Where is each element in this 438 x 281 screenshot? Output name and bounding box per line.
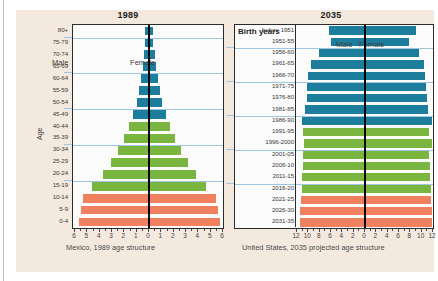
axis-minor-tick bbox=[336, 229, 337, 231]
bar-male bbox=[303, 128, 365, 136]
bar-female bbox=[365, 83, 426, 91]
bar-male bbox=[302, 173, 365, 181]
bar-female bbox=[365, 139, 432, 147]
gridline-tick bbox=[226, 81, 234, 82]
female-label-2035: Female bbox=[359, 40, 384, 49]
axis-tick-label: 10 bbox=[301, 232, 313, 239]
axis-tick-label: 6 bbox=[392, 232, 404, 239]
axis-tick-label: 12 bbox=[290, 232, 302, 239]
bar-female bbox=[365, 105, 428, 113]
axis-tick-label: 5 bbox=[204, 232, 216, 239]
bar-male bbox=[307, 83, 365, 91]
axis-tick-label: 1 bbox=[154, 232, 166, 239]
chart-caption-2035: United States, 2035 projected age struct… bbox=[242, 243, 385, 252]
bar-male bbox=[111, 158, 149, 167]
axis-minor-tick bbox=[204, 229, 205, 231]
axis-tick-label: 8 bbox=[403, 232, 415, 239]
axis-minor-tick bbox=[191, 229, 192, 231]
category-label: 15-19 bbox=[32, 181, 68, 188]
bar-male bbox=[301, 196, 365, 204]
axis-minor-tick bbox=[80, 229, 81, 231]
axis-tick-label: 5 bbox=[80, 232, 92, 239]
bar-male bbox=[300, 218, 365, 226]
axis-minor-tick bbox=[179, 229, 180, 231]
axis-tick-label: 3 bbox=[105, 232, 117, 239]
axis-tick-label: 4 bbox=[381, 232, 393, 239]
bar-male bbox=[319, 49, 365, 57]
axis-minor-tick bbox=[347, 229, 348, 231]
axis-tick-label: 4 bbox=[191, 232, 203, 239]
bar-female bbox=[149, 194, 216, 203]
category-label: 45-49 bbox=[32, 110, 68, 117]
bar-female bbox=[149, 74, 158, 83]
bar-male bbox=[329, 26, 365, 34]
axis-tick-label: 0 bbox=[358, 232, 370, 239]
axis-minor-tick bbox=[105, 229, 106, 231]
axis-minor-tick bbox=[370, 229, 371, 231]
axis-minor-tick bbox=[404, 229, 405, 231]
bar-female bbox=[149, 182, 206, 191]
category-label: 50-54 bbox=[32, 98, 68, 105]
axis-minor-tick bbox=[302, 229, 303, 231]
bar-male bbox=[124, 134, 149, 143]
bar-male bbox=[302, 184, 365, 192]
axis-tick-label: 12 bbox=[426, 232, 438, 239]
category-label: 0-4 bbox=[32, 217, 68, 224]
axis-tick-label: 6 bbox=[216, 232, 228, 239]
axis-minor-tick bbox=[167, 229, 168, 231]
axis-tick-label: 2 bbox=[167, 232, 179, 239]
bar-female bbox=[149, 158, 188, 167]
plot-area-1989 bbox=[72, 24, 224, 229]
bar-male bbox=[304, 139, 365, 147]
axis-minor-tick bbox=[216, 229, 217, 231]
bar-male bbox=[79, 218, 149, 227]
center-axis-1989 bbox=[148, 25, 150, 228]
category-label: 10-14 bbox=[32, 193, 68, 200]
bar-female bbox=[149, 146, 181, 155]
bar-male bbox=[311, 60, 365, 68]
category-label: 40-44 bbox=[32, 122, 68, 129]
bar-female bbox=[365, 117, 432, 125]
chart-caption-1989: Mexico, 1989 age structure bbox=[66, 243, 155, 252]
gridline-tick bbox=[226, 115, 234, 116]
axis-tick-label: 0 bbox=[142, 232, 154, 239]
gridline-tick bbox=[64, 37, 72, 38]
bar-male bbox=[137, 98, 149, 107]
male-label-2035: Male bbox=[336, 40, 352, 49]
axis-tick-label: 6 bbox=[68, 232, 80, 239]
category-label: 35-39 bbox=[32, 133, 68, 140]
bar-male bbox=[303, 151, 365, 159]
axis-minor-tick bbox=[381, 229, 382, 231]
axis-tick-label: 4 bbox=[93, 232, 105, 239]
category-label: 65-69 bbox=[32, 62, 68, 69]
axis-tick-label: 6 bbox=[324, 232, 336, 239]
chart-panel-1989: 1989 Age Male Female 6543210123456 Mexic… bbox=[30, 10, 226, 262]
gridline-tick bbox=[64, 108, 72, 109]
bar-male bbox=[305, 105, 365, 113]
axis-tick-label: 10 bbox=[415, 232, 427, 239]
axis-minor-tick bbox=[154, 229, 155, 231]
axis-tick-label: 2 bbox=[369, 232, 381, 239]
bar-female bbox=[149, 122, 170, 131]
category-label: 5-9 bbox=[32, 205, 68, 212]
bar-female bbox=[365, 162, 430, 170]
axis-minor-tick bbox=[358, 229, 359, 231]
bar-female bbox=[365, 173, 430, 181]
bar-male bbox=[81, 206, 149, 215]
axis-minor-tick bbox=[415, 229, 416, 231]
bar-male bbox=[133, 110, 149, 119]
axis-minor-tick bbox=[313, 229, 314, 231]
bar-female bbox=[149, 86, 160, 95]
bar-female bbox=[365, 151, 429, 159]
axis-minor-tick bbox=[117, 229, 118, 231]
axis-minor-tick bbox=[426, 229, 427, 231]
chart-title-1989: 1989 bbox=[30, 10, 226, 20]
axis-tick-label: 3 bbox=[179, 232, 191, 239]
axis-minor-tick bbox=[93, 229, 94, 231]
axis-tick-label: 1 bbox=[130, 232, 142, 239]
bar-male bbox=[302, 117, 365, 125]
category-label: 30-34 bbox=[32, 145, 68, 152]
axis-tick-label: 4 bbox=[335, 232, 347, 239]
center-axis-2035 bbox=[364, 25, 366, 228]
